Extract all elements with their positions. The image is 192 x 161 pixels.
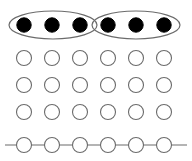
grid-circle-r2c2 — [73, 78, 88, 93]
grid-circle-r3c3 — [101, 105, 116, 120]
grid-circle-r2c0 — [17, 78, 32, 93]
grid-circle-r4c5 — [157, 138, 172, 153]
grid-circle-r0c4 — [129, 18, 143, 32]
circle-row-2 — [17, 78, 172, 93]
circle-row-3 — [17, 105, 172, 120]
grid-circle-r0c0 — [17, 18, 31, 32]
grid-circle-r2c1 — [45, 78, 60, 93]
grid-circle-r2c5 — [157, 78, 172, 93]
grid-circle-r1c0 — [17, 51, 32, 66]
grid-circle-r1c3 — [101, 51, 116, 66]
grid-circle-r1c4 — [129, 51, 144, 66]
grid-circle-r3c1 — [45, 105, 60, 120]
grid-circle-r0c1 — [45, 18, 59, 32]
grid-circle-r4c3 — [101, 138, 116, 153]
grid-circle-r4c1 — [45, 138, 60, 153]
grid-circle-r4c0 — [17, 138, 32, 153]
circle-grid-diagram — [0, 0, 192, 161]
grid-circle-r3c5 — [157, 105, 172, 120]
grid-circle-r1c5 — [157, 51, 172, 66]
grid-circle-r2c4 — [129, 78, 144, 93]
figure-root — [0, 0, 192, 161]
grid-circle-r0c3 — [101, 18, 115, 32]
grouping-ellipses — [9, 11, 180, 39]
grid-circle-r3c2 — [73, 105, 88, 120]
grid-circle-r1c1 — [45, 51, 60, 66]
grid-circle-r4c2 — [73, 138, 88, 153]
grid-circle-r0c2 — [73, 18, 87, 32]
grid-circle-r3c4 — [129, 105, 144, 120]
grid-circle-r1c2 — [73, 51, 88, 66]
grid-circle-r3c0 — [17, 105, 32, 120]
grid-circle-r2c3 — [101, 78, 116, 93]
grid-circle-r0c5 — [157, 18, 171, 32]
circle-row-1 — [17, 51, 172, 66]
grid-circle-r4c4 — [129, 138, 144, 153]
